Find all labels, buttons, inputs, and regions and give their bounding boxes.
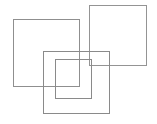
- canvas-background: [0, 0, 157, 124]
- overlapping-squares-figure: [0, 0, 157, 124]
- figure-canvas: [0, 0, 157, 124]
